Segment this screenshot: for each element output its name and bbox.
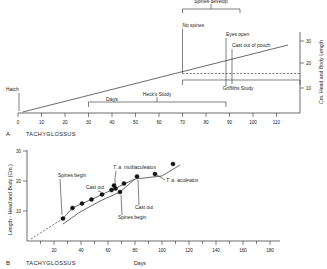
x-axis-title-b: Days	[134, 260, 146, 266]
svg-text:140: 140	[212, 248, 220, 253]
cast-out-upper-label: Cast out	[86, 185, 105, 190]
heck-study-label: Heck's Study	[143, 92, 172, 97]
spines-begin-upper-leader	[60, 179, 62, 215]
species-label-aculeatus: T. a. aculeatus	[166, 177, 199, 183]
y-ticklabels-a: 10 20 30	[306, 39, 312, 91]
x-ticklabels-b: 20 40 60 80 100 120 140 160 180	[51, 248, 274, 253]
species-label-multiaculeatus: T. a. multiaculeatus	[113, 164, 156, 170]
x-ticklabels-a: 0 10 20 30 40 50 60 70 80 90 100 110	[17, 120, 281, 125]
panel-b: 20 40 60 80 100 120 140 160 180 10 20 30	[0, 131, 327, 269]
griffiths-study-bracket	[183, 80, 301, 85]
svg-text:110: 110	[273, 120, 281, 125]
svg-text:40: 40	[109, 120, 115, 125]
griffiths-study-label: Griffiths Study	[223, 86, 254, 91]
y-axis-title-b: Length - Head and Body (Cm.)	[7, 164, 13, 235]
cast-out-of-pouch-label: Cast out of pouch	[232, 43, 271, 48]
x-ticks-a	[18, 113, 277, 117]
spines-begin-upper-label: Spines begin	[58, 173, 87, 178]
svg-text:0: 0	[17, 120, 20, 125]
y-axis-title-a: Cm. Head and Body Length	[318, 40, 324, 104]
x-ticks-b	[41, 241, 271, 245]
svg-text:10: 10	[39, 120, 45, 125]
y-ticks-a	[300, 41, 304, 88]
cast-out-upper-leader	[98, 191, 101, 192]
svg-text:20: 20	[306, 61, 312, 66]
cast-out-lower-label: Cast out	[135, 205, 154, 210]
svg-text:40: 40	[78, 248, 84, 253]
svg-text:60: 60	[105, 248, 111, 253]
spines-begin-lower-leader	[121, 195, 122, 215]
y-ticklabels-b: 10 20 30	[16, 149, 22, 214]
svg-text:20: 20	[51, 248, 57, 253]
panel-a: 0 10 20 30 40 50 60 70 80 90 100 110 10	[0, 0, 327, 138]
panel-b-plot: 20 40 60 80 100 120 140 160 180 10 20 30	[0, 131, 327, 269]
svg-text:10: 10	[306, 86, 312, 91]
extrapolation-dashed-b	[31, 219, 63, 240]
svg-text:90: 90	[227, 120, 233, 125]
panel-a-plot: 0 10 20 30 40 50 60 70 80 90 100 110 10	[0, 0, 327, 138]
panel-b-caption: TACHYGLOSSUS	[26, 260, 76, 266]
spines-begin-lower-label: Spines begin	[118, 215, 147, 220]
svg-text:120: 120	[185, 248, 193, 253]
svg-text:80: 80	[132, 248, 138, 253]
y-ticks-b	[23, 151, 27, 211]
svg-text:80: 80	[203, 120, 209, 125]
svg-text:100: 100	[158, 248, 166, 253]
eyes-open-label: Eyes open	[226, 32, 249, 37]
panel-b-letter: B	[6, 260, 10, 266]
svg-text:10: 10	[16, 209, 22, 214]
svg-text:60: 60	[156, 120, 162, 125]
data-points-multiaculeatus	[61, 186, 118, 220]
cast-out-lower-leader	[138, 180, 139, 205]
species-leader-aculeatus	[157, 175, 165, 180]
no-spines-label: No spines	[183, 23, 205, 28]
svg-text:30: 30	[86, 120, 92, 125]
spines-develop-bracket	[183, 9, 241, 13]
svg-text:100: 100	[249, 120, 257, 125]
svg-text:30: 30	[306, 39, 312, 44]
svg-text:70: 70	[180, 120, 186, 125]
svg-text:30: 30	[16, 149, 22, 154]
heck-study-bracket	[89, 102, 227, 107]
svg-text:50: 50	[133, 120, 139, 125]
svg-text:20: 20	[16, 179, 22, 184]
svg-text:20: 20	[62, 120, 68, 125]
svg-text:160: 160	[239, 248, 247, 253]
x-axis-title-a: Days	[106, 96, 118, 102]
svg-text:180: 180	[266, 248, 274, 253]
hatch-label: Hatch	[6, 87, 19, 92]
figure-container: 0 10 20 30 40 50 60 70 80 90 100 110 10	[0, 0, 327, 269]
spines-develop-label: Spines develop	[194, 0, 228, 4]
